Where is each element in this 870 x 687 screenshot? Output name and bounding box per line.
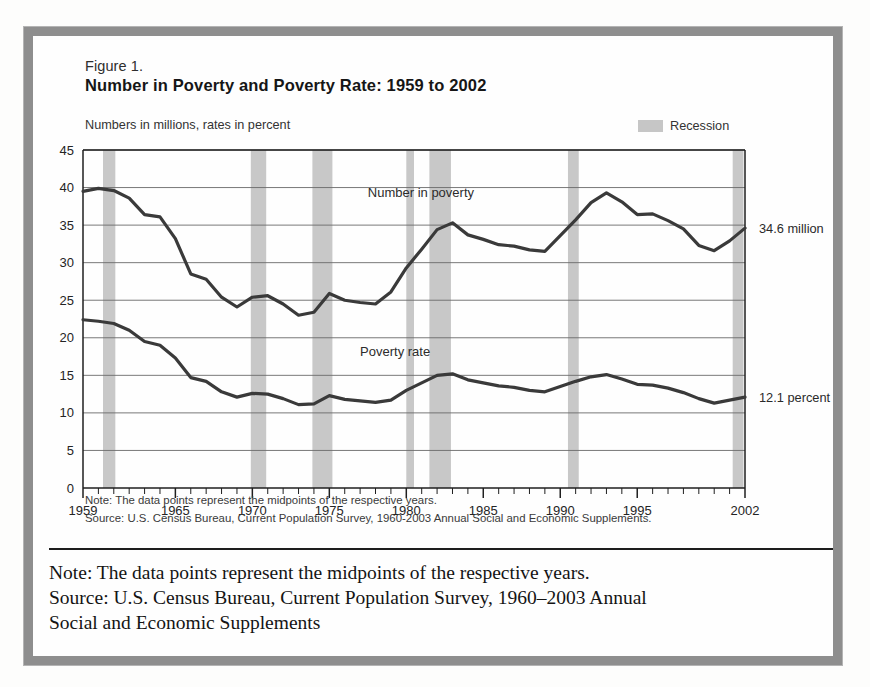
recession-bands-group (103, 150, 743, 488)
y-tick-label-15: 15 (60, 368, 74, 383)
caption-divider (49, 548, 833, 550)
series-label-poverty-rate: Poverty rate (360, 344, 430, 359)
y-tick-label-35: 35 (60, 218, 74, 233)
end-label-poverty-rate: 12.1 percent (759, 390, 831, 405)
x-tick-label-2002: 2002 (731, 503, 760, 518)
y-tick-label-30: 30 (60, 255, 74, 270)
recession-band-4 (429, 150, 451, 488)
y-tick-label-25: 25 (60, 293, 74, 308)
recession-band-1 (251, 150, 266, 488)
caption-source-line: Source: U.S. Census Bureau, Current Popu… (49, 587, 647, 608)
caption-note-line: Note: The data points represent the midp… (49, 562, 590, 583)
end-label-number-in-poverty: 34.6 million (759, 221, 824, 236)
y-tick-label-40: 40 (60, 180, 74, 195)
recession-band-0 (103, 150, 115, 488)
caption-block: Note: The data points represent the midp… (49, 560, 835, 635)
y-tick-label-0: 0 (67, 481, 74, 496)
recession-band-6 (733, 150, 744, 488)
y-tick-label-45: 45 (60, 143, 74, 158)
y-axis-ticks: 051015202530354045 (60, 143, 74, 496)
scanned-page: Figure 1. Number in Poverty and Poverty … (0, 0, 870, 687)
end-value-labels-group: 34.6 million12.1 percent (759, 221, 831, 405)
caption-source-cont: Social and Economic Supplements (49, 612, 320, 633)
y-tick-label-20: 20 (60, 330, 74, 345)
recession-band-2 (312, 150, 332, 488)
recession-band-3 (406, 150, 414, 488)
series-labels-group: Number in povertyPoverty rate (360, 185, 474, 358)
y-tick-label-5: 5 (67, 443, 74, 458)
figure-inner: Figure 1. Number in Poverty and Poverty … (33, 36, 833, 656)
figure-note: Note: The data points represent the midp… (85, 494, 437, 506)
figure-source: Source: U.S. Census Bureau, Current Popu… (85, 512, 652, 524)
figure-frame: Figure 1. Number in Poverty and Poverty … (24, 27, 842, 665)
series-label-number-in-poverty: Number in poverty (368, 185, 475, 200)
y-tick-label-10: 10 (60, 405, 74, 420)
recession-band-5 (568, 150, 579, 488)
